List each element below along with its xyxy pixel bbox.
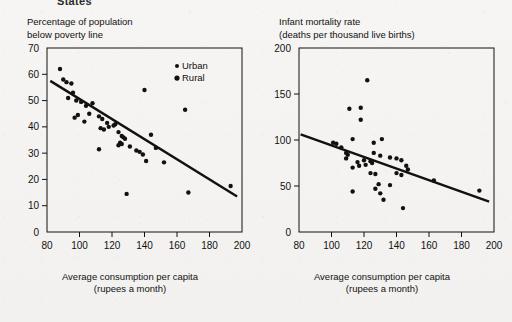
trend-line (50, 81, 237, 197)
data-point (149, 133, 153, 137)
data-point (82, 119, 86, 123)
y-tick-label: 0 (285, 227, 291, 238)
data-point (105, 121, 109, 125)
data-point (378, 191, 382, 195)
data-point (142, 88, 146, 92)
data-point (100, 117, 104, 121)
x-tick-label: 180 (453, 240, 470, 251)
y-tick-label: 10 (28, 200, 40, 211)
data-point (432, 178, 436, 182)
data-point (128, 144, 132, 148)
chart-title-line1: Percentage of population (27, 16, 133, 27)
legend-marker-urban (175, 64, 179, 68)
chart-panel-poverty: Percentage of population below poverty l… (6, 0, 254, 322)
data-point (124, 192, 128, 196)
chart-panel-infant-mortality: Infant mortality rate (deaths per thousa… (258, 0, 506, 322)
data-point (394, 171, 398, 175)
data-point (357, 164, 361, 168)
data-point (79, 100, 83, 104)
data-point (373, 187, 377, 191)
chart-title-infant-mortality: Infant mortality rate (deaths per thousa… (279, 16, 415, 41)
x-tick-label: 180 (201, 240, 218, 251)
y-tick-label: 100 (274, 135, 291, 146)
data-point (90, 101, 94, 105)
x-tick-label: 200 (486, 240, 503, 251)
chart-title-poverty: Percentage of population below poverty l… (27, 16, 133, 41)
data-point (372, 141, 376, 145)
data-point (372, 151, 376, 155)
legend-label-urban: Urban (182, 60, 208, 71)
data-point (107, 125, 111, 129)
data-point (97, 147, 101, 151)
data-point (388, 155, 392, 159)
data-point (381, 198, 385, 202)
data-point (406, 167, 410, 171)
data-point (116, 130, 120, 134)
y-tick-label: 60 (28, 69, 40, 80)
data-point (87, 112, 91, 116)
data-point (399, 158, 403, 162)
data-point (394, 156, 398, 160)
x-axis-caption-line1: Average consumption per capita (314, 271, 450, 282)
data-point (113, 122, 117, 126)
data-point (370, 161, 374, 165)
data-point (72, 115, 76, 119)
data-point (350, 165, 354, 169)
x-tick-label: 140 (388, 240, 405, 251)
chart-title-line2: (deaths per thousand live births) (279, 29, 415, 40)
data-point (66, 96, 70, 100)
data-point (401, 206, 405, 210)
data-point (183, 108, 187, 112)
legend-label-rural: Rural (182, 72, 205, 83)
x-tick-label: 120 (104, 240, 121, 251)
y-tick-label: 0 (33, 227, 39, 238)
data-point (373, 172, 377, 176)
data-point (186, 190, 190, 194)
chart-title-line1: Infant mortality rate (279, 16, 360, 27)
x-axis-caption-line2: (rupees a month) (258, 283, 506, 295)
data-point (362, 158, 366, 162)
data-point (363, 163, 367, 167)
data-point (141, 152, 145, 156)
data-point (116, 143, 120, 147)
data-point (74, 98, 78, 102)
data-point (378, 153, 382, 157)
data-point (144, 159, 148, 163)
chart-title-line2: below poverty line (27, 29, 103, 40)
data-point (344, 156, 348, 160)
y-tick-label: 50 (280, 181, 292, 192)
data-point (350, 189, 354, 193)
y-tick-label: 40 (28, 121, 40, 132)
trend-line (301, 134, 490, 201)
data-point (71, 90, 75, 94)
y-tick-label: 70 (28, 43, 40, 54)
y-tick-label: 150 (274, 89, 291, 100)
x-tick-label: 140 (136, 240, 153, 251)
scatter-plot-poverty: 01020304050607080100120140160180200Urban… (6, 40, 254, 272)
data-point (350, 137, 354, 141)
data-point (359, 118, 363, 122)
x-tick-label: 200 (234, 240, 251, 251)
data-point (477, 188, 481, 192)
data-point (69, 81, 73, 85)
data-point (228, 184, 232, 188)
data-point (123, 136, 127, 140)
x-tick-label: 120 (356, 240, 373, 251)
data-point (347, 107, 351, 111)
data-point (84, 104, 88, 108)
scatter-plot-infant-mortality: 05010015020080100120140160180200 (258, 40, 506, 272)
x-tick-label: 80 (293, 240, 305, 251)
x-tick-label: 160 (169, 240, 186, 251)
x-axis-caption-infant-mortality: Average consumption per capita (rupees a… (258, 271, 506, 295)
data-point (64, 80, 68, 84)
data-point (380, 137, 384, 141)
x-axis-caption-line2: (rupees a month) (6, 283, 254, 295)
data-point (154, 146, 158, 150)
data-point (399, 173, 403, 177)
legend-marker-rural (174, 75, 179, 80)
data-point (388, 183, 392, 187)
data-point (58, 67, 62, 71)
x-axis-caption-line1: Average consumption per capita (62, 271, 198, 282)
data-point (102, 127, 106, 131)
y-tick-label: 20 (28, 174, 40, 185)
